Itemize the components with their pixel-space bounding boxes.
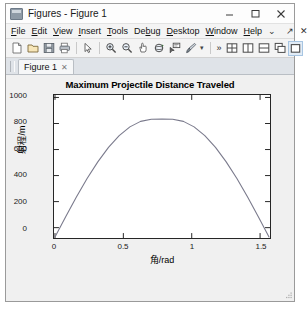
menu-help[interactable]: Help — [241, 25, 266, 38]
save-figure-icon[interactable] — [41, 41, 56, 56]
minimize-button[interactable] — [216, 4, 242, 24]
window-controls — [216, 4, 294, 23]
new-figure-icon[interactable] — [9, 41, 24, 56]
x-tick-label: 1 — [177, 242, 207, 251]
menu-bar: File Edit View Insert Tools Debug Deskto… — [6, 24, 294, 39]
menu-view[interactable]: View — [50, 25, 75, 38]
tile-vertical-icon[interactable] — [240, 41, 255, 56]
toolbar-overflow-icon[interactable]: » — [214, 43, 224, 53]
menu-window[interactable]: Window — [203, 25, 241, 38]
maximize-button[interactable] — [242, 4, 268, 24]
zoom-in-icon[interactable] — [103, 41, 118, 56]
toolbar-separator-2 — [99, 42, 100, 54]
x-tick-label: 0 — [39, 242, 69, 251]
pan-icon[interactable] — [135, 41, 150, 56]
menu-insert[interactable]: Insert — [75, 25, 104, 38]
x-axis-label: 角/rad — [53, 253, 271, 266]
figure-canvas: Maximum Projectile Distance Traveled 100… — [6, 75, 294, 301]
chart-title: Maximum Projectile Distance Traveled — [6, 79, 294, 90]
y-axis-label: 射程/m — [15, 105, 28, 175]
x-tick-label: 0.5 — [108, 242, 138, 251]
rotate-3d-icon[interactable] — [151, 41, 166, 56]
figures-window: Figures - Figure 1 File Edit View Insert… — [5, 3, 295, 302]
y-tick-label: 1000 — [6, 91, 27, 100]
brush-icon[interactable] — [183, 41, 198, 56]
brush-dropdown-caret[interactable]: ▾ — [199, 44, 205, 52]
toolbar-separator-1 — [76, 42, 77, 54]
tile-horizontal-icon[interactable] — [256, 41, 271, 56]
title-bar: Figures - Figure 1 — [6, 4, 294, 24]
panel-close-icon[interactable]: ✕ — [297, 25, 301, 38]
single-pane-icon[interactable] — [288, 41, 301, 56]
tab-close-icon[interactable]: ✕ — [61, 63, 68, 72]
tab-strip: Figure 1 ✕ — [6, 58, 294, 75]
y-tick-label: 200 — [6, 197, 27, 206]
print-figure-icon[interactable] — [57, 41, 72, 56]
close-button[interactable] — [268, 4, 294, 24]
zoom-out-icon[interactable] — [119, 41, 134, 56]
tab-figure-1[interactable]: Figure 1 ✕ — [18, 59, 74, 74]
plot-area[interactable] — [53, 94, 271, 239]
tile-grid-icon[interactable] — [224, 41, 239, 56]
plot-svg — [54, 95, 270, 238]
range-curve — [55, 119, 269, 237]
x-tick-label: 1.5 — [246, 242, 276, 251]
data-cursor-icon[interactable] — [167, 41, 182, 56]
menu-desktop[interactable]: Desktop — [164, 25, 203, 38]
undock-icon[interactable]: ↗ — [283, 25, 297, 38]
menu-overflow-icon[interactable]: ⌄ — [265, 25, 279, 38]
tab-strip-grip[interactable] — [10, 61, 15, 72]
menu-tools[interactable]: Tools — [104, 25, 131, 38]
window-title: Figures - Figure 1 — [28, 8, 216, 19]
resize-grip-icon[interactable] — [284, 291, 293, 300]
y-axis-ticks — [54, 97, 270, 227]
menu-file[interactable]: File — [8, 25, 29, 38]
matlab-figure-icon — [10, 8, 23, 20]
cascade-icon[interactable] — [272, 41, 287, 56]
toolbar-separator-3 — [210, 42, 211, 54]
tab-label: Figure 1 — [24, 62, 57, 72]
toolbar: ▾ » — [6, 39, 294, 58]
open-file-icon[interactable] — [25, 41, 40, 56]
edit-plot-icon[interactable] — [80, 41, 95, 56]
menu-edit[interactable]: Edit — [29, 25, 51, 38]
y-tick-label: 0 — [6, 224, 27, 233]
menu-debug[interactable]: Debug — [131, 25, 164, 38]
